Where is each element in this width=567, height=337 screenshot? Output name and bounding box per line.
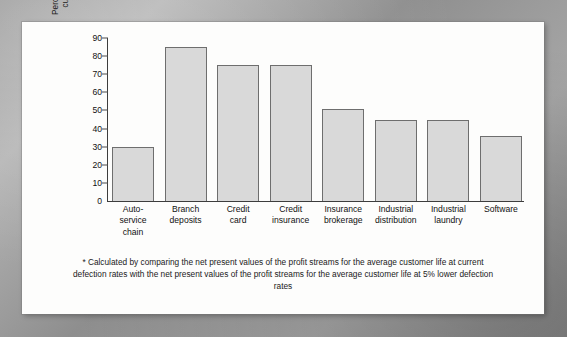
y-axis-tick-mark (102, 128, 108, 129)
x-axis-category-label: Industrial laundry (420, 204, 476, 250)
bar-slot (375, 38, 417, 201)
y-axis-tick-label: 60 (80, 88, 102, 97)
y-axis-tick-mark (102, 38, 108, 39)
x-axis-category-label: Industrial distribution (368, 204, 424, 250)
bar (322, 109, 364, 201)
y-axis-tick-label: 70 (80, 70, 102, 79)
x-axis-category-label: Software (473, 204, 529, 250)
bar-slot (112, 38, 154, 201)
chart-card: Percent increase in customer value 90807… (22, 22, 544, 314)
y-axis-tick-label: 0 (80, 197, 102, 206)
bar-slot (165, 38, 207, 201)
bar-slot (322, 38, 364, 201)
bar (427, 120, 469, 202)
bar (270, 65, 312, 201)
bar (112, 147, 154, 201)
x-axis-category-label: Auto- service chain (105, 204, 161, 250)
x-axis-category-label: Credit card (210, 204, 266, 250)
plot-area: 9080706050403020100 (80, 38, 524, 216)
y-axis-tick-mark (102, 110, 108, 111)
y-axis-line (107, 38, 108, 201)
y-axis-tick-mark (102, 182, 108, 183)
y-axis-tick-label: 20 (80, 160, 102, 169)
y-axis-tick-mark (102, 74, 108, 75)
y-axis-tick-mark (102, 146, 108, 147)
y-axis-tick-mark (102, 92, 108, 93)
y-axis-tick-mark (102, 56, 108, 57)
x-axis-line (107, 201, 524, 202)
y-axis-tick-label: 50 (80, 106, 102, 115)
y-axis-tick-label: 30 (80, 142, 102, 151)
x-axis-category-label: Insurance brokerage (315, 204, 371, 250)
chart-footnote: * Calculated by comparing the net presen… (68, 256, 498, 293)
x-axis-category-label: Credit insurance (263, 204, 319, 250)
y-axis-tick-label: 40 (80, 124, 102, 133)
x-axis-category-labels: Auto- service chainBranch depositsCredit… (112, 204, 522, 250)
scanned-page-frame: Percent increase in customer value 90807… (0, 0, 567, 337)
y-axis-tick-label: 10 (80, 178, 102, 187)
y-axis-tick-label: 90 (80, 34, 102, 43)
bar (165, 47, 207, 201)
y-axis-tick-mark (102, 164, 108, 165)
x-axis-category-label: Branch deposits (158, 204, 214, 250)
bar-slot (427, 38, 469, 201)
bar-series (112, 38, 522, 201)
bar-slot (270, 38, 312, 201)
bar (480, 136, 522, 201)
bar (217, 65, 259, 201)
y-axis-label: Percent increase in customer value (46, 0, 76, 68)
bar (375, 120, 417, 202)
y-axis-tick-labels: 9080706050403020100 (80, 38, 102, 201)
y-axis-tick-label: 80 (80, 52, 102, 61)
bar-slot (480, 38, 522, 201)
bar-slot (217, 38, 259, 201)
